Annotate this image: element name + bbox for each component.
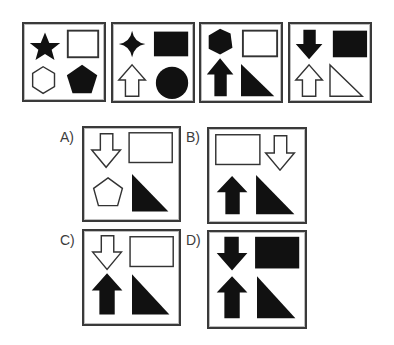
option-b-box[interactable] [207, 127, 307, 224]
hexagon-outline-icon [33, 67, 55, 94]
sequence-box-3 [199, 22, 283, 103]
pentagon-filled-icon [67, 65, 97, 94]
sequence-box-2 [111, 22, 195, 103]
rectangle-outline-icon [130, 237, 173, 267]
arrow-up-outline-icon [296, 65, 323, 96]
sequence-box-2-shapes [113, 24, 193, 101]
option-c-label: C) [60, 233, 75, 247]
sequence-box-1 [22, 22, 106, 102]
right-triangle-outline-icon [330, 65, 362, 96]
option-a-box[interactable] [82, 126, 181, 222]
option-c-box[interactable] [82, 229, 181, 326]
sequence-box-4 [288, 22, 372, 103]
four-point-star-icon [119, 31, 146, 58]
arrow-down-filled-icon [296, 30, 323, 59]
rectangle-filled-icon [154, 32, 188, 57]
pentagon-outline-icon [94, 178, 123, 206]
option-d-label: D) [186, 233, 201, 247]
rectangle-outline-icon [68, 31, 98, 58]
sequence-box-1-shapes [24, 24, 104, 100]
option-b-label: B) [186, 130, 200, 144]
right-triangle-filled-icon [256, 175, 294, 214]
circle-filled-icon [156, 67, 188, 99]
right-triangle-filled-icon [132, 174, 168, 211]
rectangle-outline-icon [129, 133, 172, 163]
sequence-box-4-shapes [290, 24, 370, 101]
option-d-box[interactable] [207, 230, 307, 329]
sequence-box-3-shapes [201, 24, 281, 101]
option-a-label: A) [60, 130, 74, 144]
arrow-down-outline-icon [266, 136, 295, 171]
option-b-shapes [209, 129, 305, 222]
option-c-shapes [84, 231, 179, 324]
arrow-up-outline-icon [119, 65, 146, 96]
option-d-shapes [209, 232, 305, 327]
arrow-up-filled-icon [217, 276, 248, 318]
right-triangle-filled-icon [132, 274, 169, 314]
arrow-up-filled-icon [92, 273, 123, 314]
rectangle-outline-icon [243, 31, 277, 57]
rectangle-filled-icon [333, 31, 367, 58]
hexagon-filled-icon [209, 29, 233, 55]
star-icon [30, 33, 60, 61]
right-triangle-filled-icon [257, 276, 295, 318]
rectangle-outline-icon [216, 135, 260, 165]
arrow-down-outline-icon [92, 134, 121, 168]
right-triangle-filled-icon [241, 64, 274, 96]
arrow-up-filled-icon [217, 176, 248, 214]
arrow-down-outline-icon [93, 236, 122, 270]
option-a-shapes [84, 128, 179, 220]
arrow-down-filled-icon [217, 237, 248, 271]
rectangle-filled-icon [255, 237, 299, 269]
arrow-up-filled-icon [207, 58, 234, 96]
